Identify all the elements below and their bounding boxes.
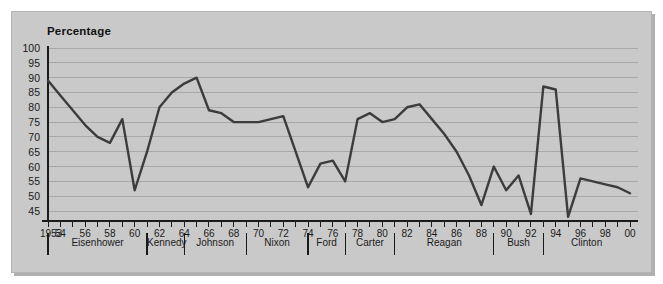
president-label: Reagan: [395, 237, 494, 248]
y-axis-tick-label: 90: [14, 73, 40, 83]
y-axis-tick-label: 95: [14, 58, 40, 68]
y-axis-tick-label: 85: [14, 87, 40, 97]
x-ticks: [48, 221, 630, 227]
axes: [42, 46, 638, 221]
president-label: Nixon: [246, 237, 308, 248]
chart-screenshot: Percentage 10095908580757065605550451953…: [0, 0, 663, 284]
y-axis-tick-label: 65: [14, 147, 40, 157]
y-axis-tick-label: 70: [14, 132, 40, 142]
president-label: Ford: [308, 237, 345, 248]
y-axis-tick-label: 45: [14, 206, 40, 216]
y-axis-tick-label: 50: [14, 191, 40, 201]
y-axis-tick-label: 80: [14, 102, 40, 112]
y-axis-tick-label: 60: [14, 162, 40, 172]
president-label: Eisenhower: [48, 237, 147, 248]
y-axis-tick-label: 75: [14, 117, 40, 127]
president-label: Bush: [494, 237, 544, 248]
y-axis-tick-label: 55: [14, 176, 40, 186]
president-label: Clinton: [543, 237, 630, 248]
president-label: Johnson: [184, 237, 246, 248]
president-label: Kennedy: [147, 237, 184, 248]
president-label: Carter: [345, 237, 395, 248]
y-axis-tick-label: 100: [14, 43, 40, 53]
